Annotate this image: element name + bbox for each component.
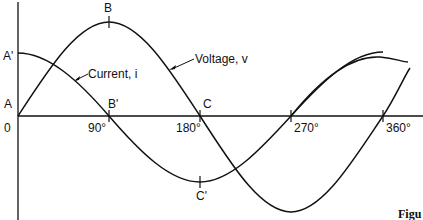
figure-caption: Figu <box>398 207 422 220</box>
sine-wave-diagram: B A' A 0 B' C C' 90° 180° 270° 360° Curr… <box>0 0 423 220</box>
tick-label-180: 180° <box>176 121 201 135</box>
voltage-label: Voltage, v <box>195 52 248 66</box>
label-B-prime: B' <box>108 97 118 111</box>
current-label: Current, i <box>88 67 137 81</box>
label-C: C <box>203 97 212 111</box>
tick-label-90: 90° <box>88 121 106 135</box>
voltage-curve <box>18 22 410 212</box>
label-origin: 0 <box>4 121 11 135</box>
label-C-prime: C' <box>196 189 207 203</box>
current-arrowhead-icon <box>74 76 80 81</box>
label-A-prime: A' <box>3 49 13 63</box>
tick-label-360: 360° <box>386 121 411 135</box>
tick-label-270: 270° <box>294 121 319 135</box>
label-A: A <box>4 97 12 111</box>
voltage-curve-tail <box>291 57 408 116</box>
voltage-arrowhead-icon <box>169 65 176 70</box>
label-B: B <box>104 1 112 15</box>
